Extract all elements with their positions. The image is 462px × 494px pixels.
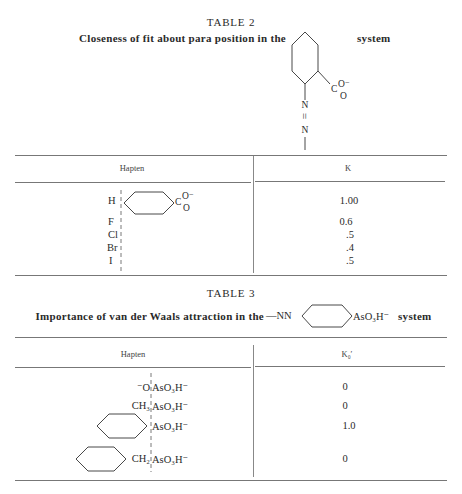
table3-row-k: 0 <box>342 381 347 392</box>
table3-row-k: 1.0 <box>342 420 355 431</box>
table3-row-k: 0 <box>342 453 347 464</box>
table3-row-right: AsO₃H⁻ <box>152 453 188 465</box>
table3-row-k: 0 <box>342 400 347 411</box>
table3-bottom-rule <box>15 480 447 481</box>
table3-row-left: CH₃ <box>132 400 150 411</box>
table3-hapten-rings-icon <box>0 0 462 494</box>
table3-row-right: AsO₃H⁻ <box>152 400 188 412</box>
table3-row-right: AsO₃H⁻ <box>152 381 188 393</box>
table3-row-left: CH₂ <box>132 453 150 464</box>
table3-row-right: AsO₃H⁻ <box>152 420 188 432</box>
table3-row-left: ⁻O <box>137 381 150 393</box>
